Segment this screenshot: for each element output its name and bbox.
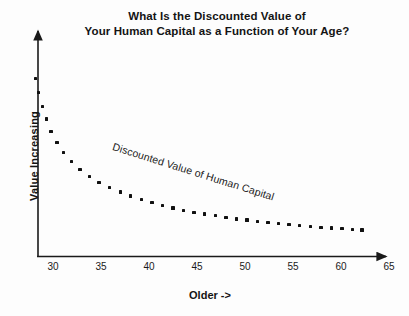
data-point <box>224 216 227 219</box>
data-point <box>287 223 290 226</box>
data-point <box>203 212 206 215</box>
chart-figure: What Is the Discounted Value of Your Hum… <box>0 0 409 316</box>
x-tick-label-50: 50 <box>230 261 260 272</box>
data-point <box>88 175 91 178</box>
data-point <box>319 226 322 229</box>
data-point <box>266 221 269 224</box>
data-point <box>245 218 248 221</box>
x-tick-label-45: 45 <box>182 261 212 272</box>
data-point <box>214 214 217 217</box>
x-tick-label-40: 40 <box>134 261 164 272</box>
data-point <box>161 204 164 207</box>
data-point <box>309 225 312 228</box>
data-point <box>108 186 111 189</box>
x-tick-label-55: 55 <box>278 261 308 272</box>
data-point <box>70 160 73 163</box>
data-point <box>119 190 122 193</box>
data-point <box>360 228 363 231</box>
data-point <box>129 194 132 197</box>
data-point <box>78 168 81 171</box>
data-point <box>41 105 44 108</box>
x-tick-label-35: 35 <box>86 261 116 272</box>
data-point <box>45 117 48 120</box>
data-point <box>37 91 40 94</box>
data-point <box>192 211 195 214</box>
y-axis-label: Value Increasing <box>28 86 40 226</box>
x-tick-label-30: 30 <box>38 261 68 272</box>
data-point <box>62 151 65 154</box>
data-point <box>235 217 238 220</box>
data-point <box>171 206 174 209</box>
data-point <box>97 181 100 184</box>
x-tick-label-65: 65 <box>374 261 404 272</box>
data-point <box>34 77 37 80</box>
data-point <box>49 130 52 133</box>
data-point <box>150 201 153 204</box>
data-point <box>256 220 259 223</box>
x-tick-label-60: 60 <box>326 261 356 272</box>
data-point <box>140 198 143 201</box>
x-axis-label: Older -> <box>140 289 280 301</box>
data-point <box>351 228 354 231</box>
data-point <box>182 209 185 212</box>
data-point <box>55 141 58 144</box>
data-point <box>340 227 343 230</box>
data-point <box>330 226 333 229</box>
